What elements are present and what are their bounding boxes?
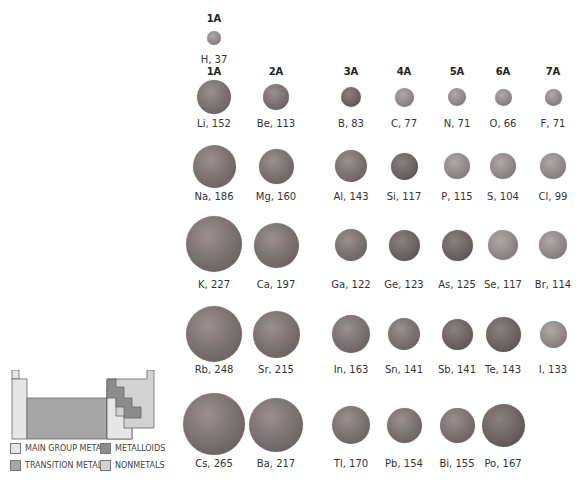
atom-label-po: Po, 167 [484, 458, 521, 469]
mini-table-h-cell [12, 370, 19, 379]
atom-sphere-n [448, 88, 466, 106]
atom-sphere-i [540, 321, 567, 348]
group-header: 7A [546, 66, 561, 77]
legend-swatch [10, 460, 21, 471]
atom-label-al: Al, 143 [333, 191, 368, 202]
atom-label-mg: Mg, 160 [256, 191, 296, 202]
group-header: 5A [450, 66, 465, 77]
atom-sphere-sb [442, 319, 473, 350]
atom-label-h: H, 37 [201, 54, 228, 65]
atom-label-na: Na, 186 [194, 191, 233, 202]
atom-sphere-br [539, 231, 567, 259]
group-header: 6A [496, 66, 511, 77]
atom-label-cs: Cs, 265 [195, 458, 233, 469]
legend-label: TRANSITION METALS [25, 461, 107, 470]
group-header: 1A [207, 13, 222, 24]
atom-sphere-b [341, 87, 361, 107]
atom-sphere-rb [186, 306, 242, 362]
atom-label-ba: Ba, 217 [257, 458, 295, 469]
atom-label-in: In, 163 [334, 364, 369, 375]
atom-sphere-be [263, 84, 289, 110]
atom-label-sb: Sb, 141 [438, 364, 476, 375]
mini-table-group1-2 [12, 379, 27, 439]
atom-sphere-po [482, 404, 525, 447]
atom-sphere-bi [440, 408, 475, 443]
legend-swatch [100, 460, 111, 471]
atom-label-n: N, 71 [444, 118, 471, 129]
atom-label-tl: Tl, 170 [334, 458, 368, 469]
atom-sphere-sn [388, 318, 420, 350]
atom-sphere-tl [332, 406, 370, 444]
legend-label: METALLOIDS [115, 444, 165, 453]
legend-item: METALLOIDS [100, 443, 165, 454]
atom-label-k: K, 227 [198, 279, 230, 290]
legend-item: TRANSITION METALS [10, 460, 107, 471]
atom-sphere-in [332, 315, 370, 353]
atom-label-li: Li, 152 [197, 118, 231, 129]
atom-label-c: C, 77 [391, 118, 417, 129]
atom-sphere-h [207, 31, 221, 45]
mini-table-transition-block [27, 398, 107, 439]
atom-label-ca: Ca, 197 [257, 279, 296, 290]
atom-sphere-ga [335, 229, 367, 261]
atom-label-si: Si, 117 [387, 191, 422, 202]
legend-item: NONMETALS [100, 460, 165, 471]
atom-sphere-s [490, 153, 516, 179]
group-header: 3A [344, 66, 359, 77]
atom-label-br: Br, 114 [535, 279, 571, 290]
atom-sphere-li [197, 80, 231, 114]
atom-sphere-ba [249, 398, 303, 452]
atom-label-cl: Cl, 99 [539, 191, 568, 202]
atom-sphere-se [488, 230, 518, 260]
atom-sphere-al [335, 150, 367, 182]
group-header: 4A [397, 66, 412, 77]
atom-label-p: P, 115 [441, 191, 472, 202]
legend-item: MAIN GROUP METALS [10, 443, 111, 454]
atom-label-i: I, 133 [539, 364, 567, 375]
atom-sphere-ca [254, 223, 299, 268]
group-header: 2A [269, 66, 284, 77]
atom-label-f: F, 71 [541, 118, 566, 129]
atom-label-s: S, 104 [487, 191, 519, 202]
atom-sphere-p [444, 153, 470, 179]
atom-sphere-sr [253, 311, 300, 358]
legend-swatch [100, 443, 111, 454]
atom-label-o: O, 66 [490, 118, 517, 129]
atom-sphere-cl [540, 153, 566, 179]
atom-label-bi: Bi, 155 [439, 458, 474, 469]
atom-label-se: Se, 117 [484, 279, 522, 290]
atom-label-pb: Pb, 154 [385, 458, 423, 469]
atom-sphere-pb [387, 408, 422, 443]
mini-periodic-table [10, 370, 160, 442]
legend-swatch [10, 443, 21, 454]
atom-label-b: B, 83 [338, 118, 364, 129]
atom-sphere-as [442, 230, 473, 261]
atom-label-te: Te, 143 [485, 364, 521, 375]
atom-label-sn: Sn, 141 [385, 364, 423, 375]
atom-label-ga: Ga, 122 [331, 279, 370, 290]
atom-label-be: Be, 113 [257, 118, 295, 129]
atom-sphere-te [486, 317, 521, 352]
legend-label: MAIN GROUP METALS [25, 444, 111, 453]
atom-label-sr: Sr, 215 [258, 364, 294, 375]
atom-sphere-o [495, 89, 512, 106]
atom-sphere-c [395, 88, 414, 107]
group-header: 1A [207, 66, 222, 77]
atom-sphere-si [391, 153, 418, 180]
atom-label-ge: Ge, 123 [384, 279, 423, 290]
atom-label-as: As, 125 [438, 279, 476, 290]
atom-sphere-k [186, 216, 242, 272]
atom-sphere-cs [183, 393, 245, 455]
legend-label: NONMETALS [115, 461, 165, 470]
atom-sphere-mg [259, 149, 294, 184]
atom-sphere-f [545, 89, 562, 106]
atom-sphere-ge [389, 230, 420, 261]
atom-label-rb: Rb, 248 [195, 364, 234, 375]
atom-sphere-na [193, 145, 236, 188]
